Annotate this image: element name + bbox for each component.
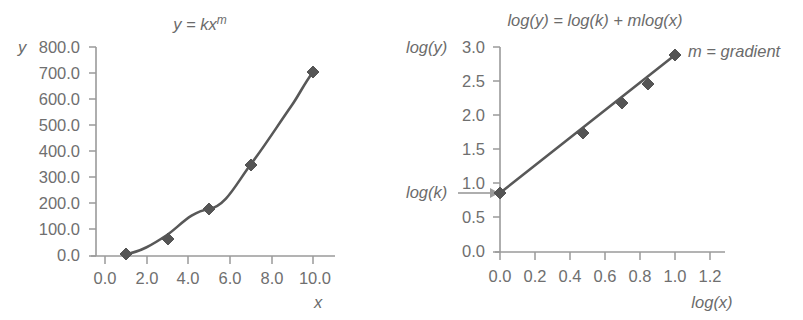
- y-axis-title-linear: y: [17, 38, 28, 56]
- x-tick-label: 4.0: [177, 269, 200, 287]
- y-tick-label: 0.0: [462, 242, 485, 260]
- x-tick-label: 2.0: [136, 269, 159, 287]
- chart-title-loglog: log(y) = log(k) + mlog(x): [507, 11, 682, 29]
- annotation-gradient-label: m = gradient: [688, 42, 782, 60]
- y-tick-label: 0.0: [57, 246, 80, 264]
- x-tick-label: 1.2: [699, 267, 722, 285]
- y-tick-label: 200.0: [39, 194, 80, 212]
- y-tick-label: 1.5: [462, 140, 485, 158]
- data-point-marker: [120, 248, 132, 260]
- chart-title-linear: y = kxm: [172, 13, 227, 33]
- chart-svg-linear: y = kxm y 800.0 700.0 600.0 500.0 400.0 …: [0, 0, 400, 320]
- y-tick-label: 3.0: [462, 38, 485, 56]
- x-tick-label: 0.2: [524, 267, 547, 285]
- series-curve-linear: [126, 72, 313, 254]
- series-line-loglog: [500, 55, 675, 193]
- x-axis-title-loglog: log(x): [691, 293, 732, 311]
- y-tick-label: 600.0: [39, 90, 80, 108]
- y-tick-label: 2.5: [462, 72, 485, 90]
- x-tick-label: 0.0: [489, 267, 512, 285]
- x-tick-label: 0.8: [629, 267, 652, 285]
- chart-panel-loglog: log(y) = log(k) + mlog(x) log(y) 3.0 2.5…: [400, 0, 803, 320]
- y-tick-label: 1.0: [462, 174, 485, 192]
- y-tick-label: 400.0: [39, 142, 80, 160]
- y-tick-label: 100.0: [39, 220, 80, 238]
- y-tick-label: 300.0: [39, 168, 80, 186]
- x-axis-title-linear: x: [313, 293, 323, 311]
- y-tick-label: 0.5: [462, 208, 485, 226]
- y-tick-label: 500.0: [39, 116, 80, 134]
- data-point-marker: [577, 127, 589, 139]
- x-tick-label: 1.0: [664, 267, 687, 285]
- x-tick-label: 0.4: [559, 267, 582, 285]
- x-tick-label: 10.0: [299, 269, 331, 287]
- annotation-log-k-label: log(k): [406, 183, 447, 201]
- figure-two-panel-power-law: y = kxm y 800.0 700.0 600.0 500.0 400.0 …: [0, 0, 803, 320]
- y-tick-label: 2.0: [462, 106, 485, 124]
- x-tick-label: 0.6: [594, 267, 617, 285]
- data-point-marker: [203, 203, 215, 215]
- chart-title-linear-exponent: m: [217, 13, 227, 27]
- data-point-marker: [162, 233, 174, 245]
- y-axis-title-loglog: log(y): [406, 38, 447, 56]
- chart-title-linear-base: y = kx: [172, 15, 217, 33]
- chart-panel-linear: y = kxm y 800.0 700.0 600.0 500.0 400.0 …: [0, 0, 400, 320]
- x-tick-label: 6.0: [219, 269, 242, 287]
- y-tick-label: 800.0: [39, 38, 80, 56]
- chart-svg-loglog: log(y) = log(k) + mlog(x) log(y) 3.0 2.5…: [400, 0, 803, 320]
- x-tick-label: 0.0: [94, 269, 117, 287]
- y-tick-label: 700.0: [39, 64, 80, 82]
- x-tick-label: 8.0: [261, 269, 284, 287]
